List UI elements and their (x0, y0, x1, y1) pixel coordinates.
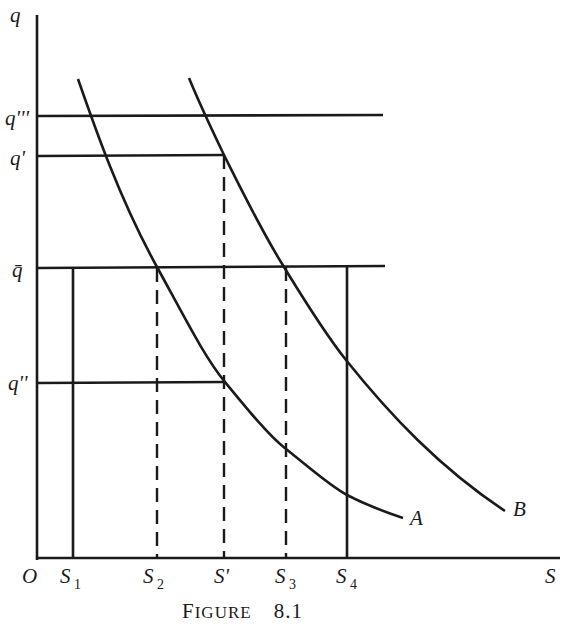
label-q-prime: q' (10, 146, 26, 170)
svg-text:4: 4 (350, 577, 357, 592)
svg-text:S: S (60, 564, 71, 588)
caption-word-first: F (182, 599, 195, 623)
label-S-prime: S' (214, 564, 230, 588)
line-q-triple-prime (37, 115, 383, 116)
label-q-bar: q̄ (12, 258, 23, 282)
curve-A (78, 79, 403, 518)
svg-text:S: S (143, 564, 154, 588)
svg-text:3: 3 (289, 577, 296, 592)
label-q-double-prime: q'' (8, 371, 28, 395)
figure-8-1: q S O q''' q' q̄ q'' S 1 S 2 S' S 3 S 4 … (0, 0, 566, 628)
label-S4: S 4 (336, 564, 357, 592)
svg-text:S: S (275, 564, 286, 588)
curve-A-label: A (408, 506, 423, 530)
y-axis-label: q (10, 3, 21, 27)
x-axis-label: S (545, 564, 556, 588)
caption-word-rest: IGURE (195, 603, 252, 622)
line-q-bar (37, 266, 385, 268)
label-q-triple-prime: q''' (5, 106, 29, 130)
svg-text:S: S (336, 564, 347, 588)
line-q-prime (37, 155, 224, 156)
line-q-double-prime (37, 382, 225, 383)
svg-text:2: 2 (157, 577, 164, 592)
figure-caption: FIGURE8.1 (182, 599, 303, 623)
svg-text:S': S' (214, 564, 230, 588)
origin-label: O (22, 564, 37, 588)
curve-B-label: B (513, 497, 526, 521)
svg-text:1: 1 (74, 577, 81, 592)
label-S2: S 2 (143, 564, 164, 592)
label-S1: S 1 (60, 564, 81, 592)
caption-number: 8.1 (274, 599, 303, 623)
label-S3: S 3 (275, 564, 296, 592)
